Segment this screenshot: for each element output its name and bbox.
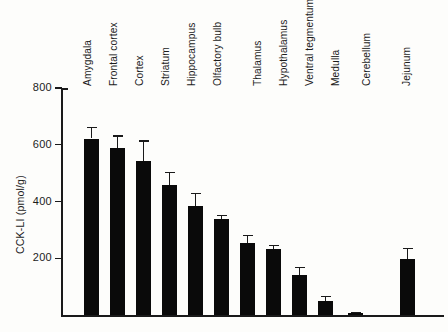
bar bbox=[110, 148, 125, 315]
bar bbox=[136, 161, 151, 315]
bar bbox=[188, 206, 203, 315]
bar bbox=[400, 259, 415, 315]
category-label: Ventral tegmentum bbox=[304, 0, 315, 86]
category-label: Jejunum bbox=[401, 47, 412, 86]
category-label: Olfactory bulb bbox=[212, 22, 223, 86]
bar bbox=[318, 301, 333, 315]
bar bbox=[348, 313, 363, 315]
bar bbox=[266, 249, 281, 315]
error-bar-cap bbox=[321, 296, 331, 297]
error-bar-stem bbox=[407, 248, 408, 259]
category-label: Frontal cortex bbox=[108, 22, 119, 86]
bar bbox=[162, 185, 177, 315]
error-bar-cap bbox=[295, 267, 305, 268]
bar bbox=[214, 219, 229, 315]
bar bbox=[240, 243, 255, 315]
error-bar-cap bbox=[165, 172, 175, 173]
error-bar-cap bbox=[351, 312, 361, 313]
error-bar-cap bbox=[87, 127, 97, 128]
category-label: Amygdala bbox=[82, 40, 93, 86]
error-bar-stem bbox=[195, 193, 196, 206]
error-bar-cap bbox=[191, 193, 201, 194]
error-bar-cap bbox=[139, 140, 149, 141]
bar bbox=[292, 275, 307, 315]
error-bar-cap bbox=[403, 248, 413, 249]
error-bar-stem bbox=[117, 135, 118, 147]
category-label: Hypothalamus bbox=[278, 20, 289, 86]
category-label: Cerebellum bbox=[361, 33, 372, 86]
category-label: Hippocampus bbox=[186, 23, 197, 86]
error-bar-cap bbox=[113, 135, 123, 136]
error-bar-stem bbox=[143, 140, 144, 161]
cck-li-bar-chart: CCK-LI (pmol/g) 200400600800 AmygdalaFro… bbox=[0, 0, 448, 332]
category-label: Cortex bbox=[134, 55, 145, 86]
error-bar-stem bbox=[169, 172, 170, 185]
bar bbox=[84, 139, 99, 315]
error-bar-cap bbox=[217, 215, 227, 216]
error-bar-cap bbox=[269, 245, 279, 246]
plot-area: AmygdalaFrontal cortexCortexStriatumHipp… bbox=[0, 0, 448, 332]
error-bar-cap bbox=[243, 235, 253, 236]
category-label: Thalamus bbox=[252, 40, 263, 86]
category-label: Striatum bbox=[160, 47, 171, 86]
error-bar-stem bbox=[91, 127, 92, 139]
category-label: Medulla bbox=[330, 50, 341, 86]
